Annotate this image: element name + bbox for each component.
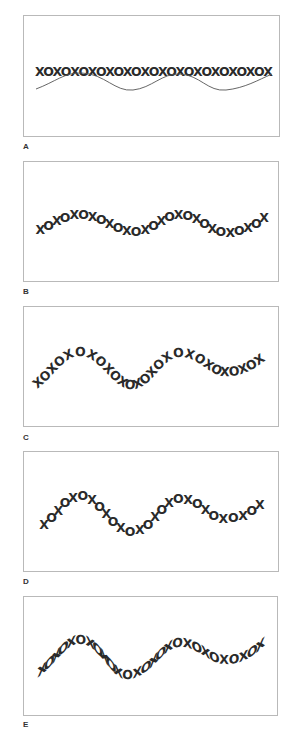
panel-c-content: XOXOXOXOXOXOXOXOXOXOXOXOXOX [29, 344, 267, 393]
path-glyph: O [75, 344, 86, 359]
path-glyph: X [219, 652, 229, 668]
path-glyph: O [122, 667, 133, 682]
path-glyph: X [219, 511, 229, 526]
path-glyph: O [172, 345, 184, 361]
panel-b-content: XOXOXOXOXOXOXOXOXOXOXOXOXOX [35, 207, 269, 240]
path-glyph: X [255, 497, 265, 512]
panel-d-content: XOXOXOXOXOXOXOXOXOXOXOXOXOX [39, 488, 265, 539]
path-glyph: O [209, 648, 220, 667]
path-glyph: O [228, 510, 239, 525]
panel-e-content: XOXOXOXOXOXOXOXOXOXOXOXOXOX [37, 632, 265, 682]
panel-a-content: XOXOXOXOXOXOXOXOXOXOXOXOXOX [35, 64, 273, 90]
path-glyph: X [259, 210, 269, 225]
path-glyph: O [125, 524, 136, 539]
path-glyph: X [255, 633, 265, 656]
path-glyph: O [172, 634, 183, 651]
panel-a-text: XOXOXOXOXOXOXOXOXOXOXOXOXOX [35, 64, 273, 79]
path-glyph: O [173, 491, 184, 506]
type-on-path-figure: XOXOXOXOXOXOXOXOXOXOXOXOXOX XOXOXOXOXOXO… [0, 0, 302, 730]
